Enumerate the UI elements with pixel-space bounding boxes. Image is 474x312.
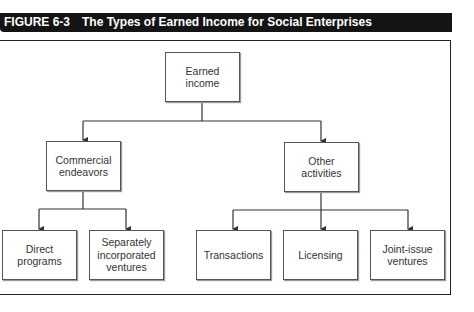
- node-label: Direct: [26, 243, 53, 255]
- node-label: income: [186, 77, 220, 89]
- node-label: programs: [17, 255, 61, 267]
- node-label: Joint-issue: [382, 243, 432, 255]
- node-direct-programs: Directprograms: [2, 230, 77, 280]
- node-transactions: Transactions: [196, 230, 271, 280]
- node-joint-issue-ventures: Joint-issueventures: [370, 230, 445, 280]
- node-earned-income: Earnedincome: [165, 52, 240, 102]
- node-licensing: Licensing: [283, 230, 358, 280]
- node-label: Separately: [101, 236, 151, 248]
- node-label: Earned: [186, 65, 220, 77]
- node-label: incorporated: [97, 249, 155, 261]
- node-label: ventures: [387, 255, 427, 267]
- node-label: Transactions: [204, 249, 264, 261]
- node-label: Other: [308, 155, 334, 167]
- node-label: ventures: [106, 261, 146, 273]
- node-label: Licensing: [298, 249, 342, 261]
- node-separately-incorporated-ventures: Separatelyincorporatedventures: [89, 230, 164, 280]
- node-label: endeavors: [59, 166, 108, 178]
- node-other-activities: Otheractivities: [284, 142, 359, 192]
- node-label: Commercial: [55, 154, 111, 166]
- node-label: activities: [301, 167, 341, 179]
- node-commercial-endeavors: Commercialendeavors: [46, 141, 121, 191]
